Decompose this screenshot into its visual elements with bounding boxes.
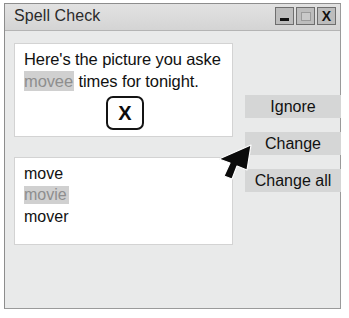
suggestion-label: move — [24, 165, 63, 182]
document-line-2-rest: times for tonight. — [74, 72, 199, 90]
suggestion-label: movie — [24, 186, 67, 203]
change-all-button-label: Change all — [255, 172, 332, 190]
close-icon: X — [322, 9, 331, 23]
minimize-icon — [280, 18, 289, 21]
document-line-1: Here's the picture you aske — [24, 50, 221, 69]
ignore-button[interactable]: Ignore — [245, 95, 341, 118]
title-bar: Spell Check X — [5, 4, 340, 31]
suggestion-label: mover — [24, 208, 68, 225]
inline-x-box: X — [106, 96, 144, 130]
spell-check-window: Spell Check X Here's the picture you ask… — [4, 3, 341, 309]
list-item[interactable]: mover — [24, 208, 68, 226]
misspelled-word[interactable]: movee — [24, 71, 74, 91]
maximize-button[interactable] — [296, 7, 315, 25]
minimize-button[interactable] — [275, 7, 294, 25]
change-button-label: Change — [265, 135, 321, 153]
close-button[interactable]: X — [317, 7, 336, 25]
list-item[interactable]: move — [24, 165, 63, 183]
document-line-1-text: Here's the picture you aske — [24, 50, 221, 68]
window-controls: X — [275, 7, 336, 25]
change-all-button[interactable]: Change all — [245, 169, 341, 192]
maximize-icon — [301, 12, 311, 21]
suggestion-list-box[interactable]: move movie mover — [14, 157, 233, 245]
document-text-box[interactable]: Here's the picture you aske movee times … — [14, 43, 233, 137]
change-button[interactable]: Change — [245, 132, 341, 155]
document-line-2: movee times for tonight. — [24, 72, 199, 91]
window-title: Spell Check — [14, 7, 100, 25]
ignore-button-label: Ignore — [270, 98, 315, 116]
window-content: Here's the picture you aske movee times … — [5, 31, 340, 308]
x-box-label: X — [118, 103, 131, 123]
list-item[interactable]: movie — [24, 186, 69, 204]
